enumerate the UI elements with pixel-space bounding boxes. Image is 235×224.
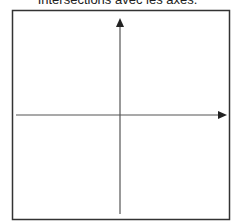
y-axis <box>116 18 124 214</box>
x-axis <box>16 111 227 119</box>
coordinate-diagram <box>0 0 235 224</box>
y-axis-arrowhead-icon <box>116 18 124 27</box>
x-axis-arrowhead-icon <box>218 111 227 119</box>
